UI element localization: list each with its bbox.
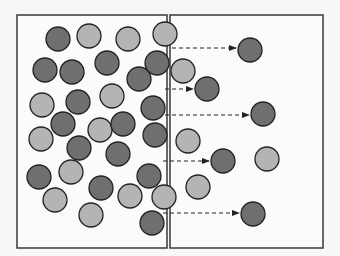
dark-particle — [111, 112, 135, 136]
light-particle — [100, 84, 124, 108]
diffusion-diagram — [0, 0, 340, 256]
dark-particle — [46, 27, 70, 51]
dark-particle — [106, 142, 130, 166]
dark-particle — [143, 123, 167, 147]
light-particle — [88, 118, 112, 142]
dark-particle — [211, 149, 235, 173]
light-particle — [29, 127, 53, 151]
light-particle — [186, 175, 210, 199]
dark-particle — [27, 165, 51, 189]
light-particle — [171, 59, 195, 83]
dark-particle — [238, 38, 262, 62]
dark-particle — [137, 164, 161, 188]
diagram-canvas — [0, 0, 340, 256]
dark-particle — [195, 77, 219, 101]
light-particle — [176, 129, 200, 153]
dark-particle — [33, 58, 57, 82]
light-particle — [43, 188, 67, 212]
light-particle — [255, 147, 279, 171]
dark-particle — [67, 136, 91, 160]
dark-particle — [140, 211, 164, 235]
light-particle — [30, 93, 54, 117]
dark-particle — [66, 90, 90, 114]
light-particle — [59, 160, 83, 184]
dark-particle — [51, 112, 75, 136]
dark-particle — [145, 51, 169, 75]
light-particle — [153, 22, 177, 46]
dark-particle — [251, 102, 275, 126]
light-particle — [79, 203, 103, 227]
dark-particle — [89, 176, 113, 200]
dark-particle — [60, 60, 84, 84]
light-particle — [118, 184, 142, 208]
light-particle — [77, 24, 101, 48]
light-particle — [152, 185, 176, 209]
light-particle — [116, 27, 140, 51]
dark-particle — [95, 51, 119, 75]
dark-particle — [241, 202, 265, 226]
dark-particle — [141, 96, 165, 120]
